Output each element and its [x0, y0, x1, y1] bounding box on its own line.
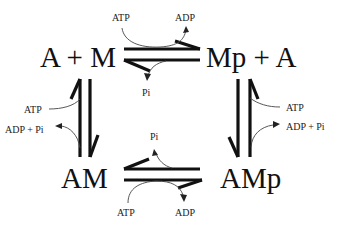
left-down-arrow [90, 79, 98, 157]
top-pi-label: Pi [142, 87, 151, 98]
right-atp-label: ATP [286, 102, 304, 113]
species-mp-plus-a: Mp + A [206, 41, 297, 73]
arrowhead-icon [55, 123, 62, 129]
arrowhead-icon [183, 26, 189, 33]
species-amp: AMp [220, 162, 281, 194]
right-down-arrow [229, 79, 238, 157]
bottom-adp-label: ADP [175, 207, 195, 218]
bottom-pi-label: Pi [150, 131, 159, 142]
reaction-cycle-diagram: A + M Mp + A AM AMp ATP ADP Pi [0, 0, 339, 226]
right-adp-pi-curve [251, 121, 280, 147]
bottom-pi-curve [152, 149, 172, 168]
diagram-canvas: A + M Mp + A AM AMp ATP ADP Pi [0, 0, 339, 226]
top-atp-label: ATP [112, 12, 130, 23]
left-adp-pi-label: ADP + Pi [5, 124, 44, 135]
species-am: AM [61, 162, 108, 194]
bottom-atp-label: ATP [117, 207, 135, 218]
top-forward-arrow [124, 41, 200, 49]
species-a-plus-m: A + M [40, 41, 116, 73]
right-atp-curve [250, 98, 280, 107]
arrowhead-icon [152, 149, 158, 156]
left-atp-curve [49, 99, 80, 109]
arrowhead-icon [144, 73, 151, 81]
top-adp-label: ADP [175, 12, 195, 23]
arrowhead-icon [273, 121, 280, 128]
left-up-arrow [71, 79, 80, 157]
left-atp-label: ATP [24, 104, 42, 115]
bottom-atp-adp-curve [128, 181, 187, 203]
right-adp-pi-label: ADP + Pi [286, 121, 325, 132]
arrowhead-icon [180, 194, 187, 202]
left-adp-pi-curve [55, 123, 80, 148]
bottom-reverse-arrow [124, 159, 200, 169]
